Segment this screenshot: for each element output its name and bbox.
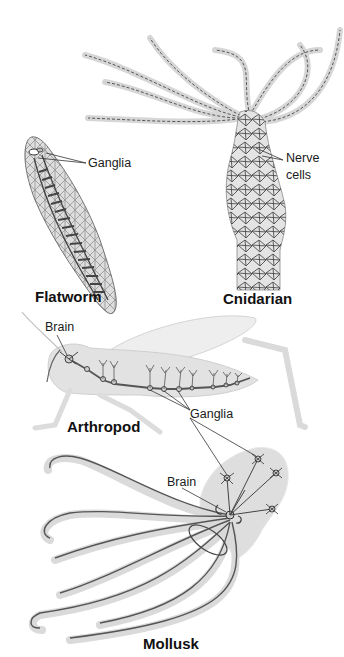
cnidarian-nerve-label-line2: cells [286, 168, 311, 182]
arthropod-ganglia-label: Ganglia [190, 407, 233, 421]
flatworm-ganglia-label: Ganglia [88, 156, 131, 170]
cnidarian-nerve-label-line1: Nerve [286, 151, 319, 165]
arthropod-title: Arthropod [67, 418, 140, 435]
arthropod-brain-label: Brain [45, 320, 74, 334]
mollusk-drawing [31, 418, 288, 640]
cnidarian-title: Cnidarian [223, 290, 292, 307]
flatworm-title: Flatworm [35, 288, 102, 305]
mollusk-title: Mollusk [143, 635, 199, 652]
mollusk-brain-label: Brain [167, 475, 196, 489]
